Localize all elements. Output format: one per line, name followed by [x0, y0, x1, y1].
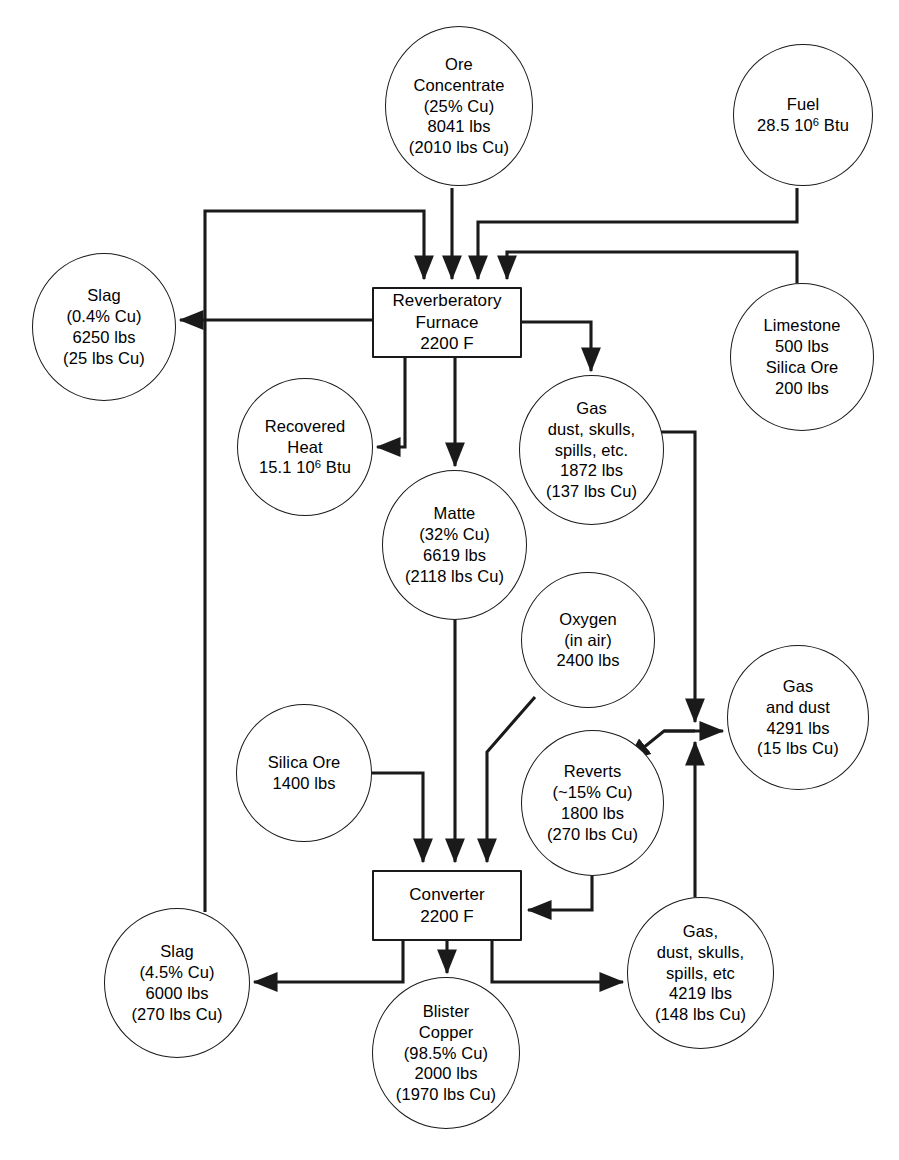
text-line: Recovered: [259, 416, 351, 437]
flow-converter-to-slag: [254, 941, 403, 982]
converter-box: Converter2200 F: [372, 870, 522, 941]
text-line: Slag: [131, 941, 222, 962]
blister-copper-node-label: BlisterCopper(98.5% Cu)2000 lbs(1970 lbs…: [396, 1001, 496, 1106]
text-line: (in air): [556, 630, 619, 651]
text-line: 1872 lbs: [546, 460, 637, 481]
text-line: 500 lbs: [763, 336, 840, 357]
text-line: Fuel: [757, 94, 849, 115]
recovered-heat-node: RecoveredHeat15.1 106 Btu: [237, 378, 373, 516]
text-line: (270 lbs Cu): [131, 1004, 222, 1025]
text-line: Blister: [396, 1001, 496, 1022]
matte-node: Matte(32% Cu)6619 lbs(2118 lbs Cu): [382, 470, 527, 620]
flow-furnace-gas-to-junction: [655, 432, 695, 722]
text-line: 2200 F: [409, 906, 485, 928]
text-line: (98.5% Cu): [396, 1043, 496, 1064]
exponent: 6: [315, 458, 321, 470]
matte-node-label: Matte(32% Cu)6619 lbs(2118 lbs Cu): [405, 503, 504, 587]
text-line: Slag: [63, 285, 145, 306]
text-line: 6619 lbs: [405, 545, 504, 566]
text-line: and dust: [757, 697, 839, 718]
ore-concentrate-node-label: OreConcentrate(25% Cu)8041 lbs(2010 lbs …: [409, 54, 509, 159]
fuel-node: Fuel28.5 106 Btu: [733, 44, 873, 186]
converter-slag-node-label: Slag(4.5% Cu)6000 lbs(270 lbs Cu): [131, 941, 222, 1025]
text-line: Concentrate: [409, 75, 509, 96]
text-line: (1970 lbs Cu): [396, 1084, 496, 1105]
text-line: Limestone: [763, 315, 840, 336]
text-line: spills, etc: [655, 963, 746, 984]
text-line: 4291 lbs: [757, 718, 839, 739]
flow-limestone-to-furnace: [507, 252, 797, 283]
text-line: Silica Ore: [268, 752, 341, 773]
text-line: 6000 lbs: [131, 983, 222, 1004]
reverts-node-label: Reverts(~15% Cu)1800 lbs(270 lbs Cu): [547, 761, 638, 845]
exponent: 6: [813, 116, 819, 128]
text-line: Gas: [757, 676, 839, 697]
text-line: Oxygen: [556, 609, 619, 630]
text-line: (25 lbs Cu): [63, 348, 145, 369]
recovered-heat-node-label: RecoveredHeat15.1 106 Btu: [259, 416, 351, 479]
furnace-slag-node-label: Slag(0.4% Cu)6250 lbs(25 lbs Cu): [63, 285, 145, 369]
oxygen-node: Oxygen(in air)2400 lbs: [521, 572, 655, 708]
text-line: (25% Cu): [409, 96, 509, 117]
text-line: spills, etc.: [546, 440, 637, 461]
text-line: (15 lbs Cu): [757, 738, 839, 759]
flow-converter-to-gas: [492, 941, 623, 982]
text-line: 6250 lbs: [63, 327, 145, 348]
text-line: 2000 lbs: [396, 1063, 496, 1084]
text-line: 4219 lbs: [655, 983, 746, 1004]
converter-gas-and-dust-node: Gasand dust4291 lbs(15 lbs Cu): [727, 645, 869, 790]
converter-slag-node: Slag(4.5% Cu)6000 lbs(270 lbs Cu): [104, 908, 250, 1058]
converter-gas-dust-skulls-node-label: Gas,dust, skulls,spills, etc4219 lbs(148…: [655, 921, 746, 1026]
text-line: (148 lbs Cu): [655, 1004, 746, 1025]
silica-ore-node-label: Silica Ore1400 lbs: [268, 752, 341, 794]
fuel-node-label: Fuel28.5 106 Btu: [757, 94, 849, 136]
text-line: Gas: [546, 398, 637, 419]
text-line: (270 lbs Cu): [547, 824, 638, 845]
ore-concentrate-node: OreConcentrate(25% Cu)8041 lbs(2010 lbs …: [385, 26, 533, 186]
text-line: Gas,: [655, 921, 746, 942]
text-line: (0.4% Cu): [63, 306, 145, 327]
text-line: 28.5 106 Btu: [757, 115, 849, 136]
text-line: 1400 lbs: [268, 773, 341, 794]
reverberatory-furnace-box-label: ReverberatoryFurnace2200 F: [392, 290, 501, 355]
furnace-gas-dust-node: Gasdust, skulls,spills, etc.1872 lbs(137…: [519, 375, 664, 525]
text-line: Furnace: [392, 312, 501, 334]
flow-fuel-to-furnace: [478, 188, 797, 279]
text-line: 15.1 106 Btu: [259, 457, 351, 478]
text-line: 8041 lbs: [409, 116, 509, 137]
reverts-node: Reverts(~15% Cu)1800 lbs(270 lbs Cu): [521, 730, 664, 876]
text-line: dust, skulls,: [655, 942, 746, 963]
text-line: (~15% Cu): [547, 782, 638, 803]
text-line: (2118 lbs Cu): [405, 566, 504, 587]
text-line: Ore: [409, 54, 509, 75]
text-line: 2200 F: [392, 333, 501, 355]
oxygen-node-label: Oxygen(in air)2400 lbs: [556, 609, 619, 672]
silica-ore-node: Silica Ore1400 lbs: [236, 704, 372, 842]
converter-gas-and-dust-node-label: Gasand dust4291 lbs(15 lbs Cu): [757, 676, 839, 760]
text-line: Copper: [396, 1022, 496, 1043]
reverberatory-furnace-box: ReverberatoryFurnace2200 F: [372, 287, 522, 358]
text-line: 2400 lbs: [556, 650, 619, 671]
text-line: Silica Ore: [763, 357, 840, 378]
blister-copper-node: BlisterCopper(98.5% Cu)2000 lbs(1970 lbs…: [372, 977, 520, 1129]
text-line: (137 lbs Cu): [546, 481, 637, 502]
text-line: 200 lbs: [763, 378, 840, 399]
furnace-gas-dust-node-label: Gasdust, skulls,spills, etc.1872 lbs(137…: [546, 398, 637, 503]
limestone-silica-ore-node: Limestone500 lbsSilica Ore200 lbs: [730, 283, 874, 431]
text-line: Reverts: [547, 761, 638, 782]
converter-box-label: Converter2200 F: [409, 884, 485, 927]
text-line: Heat: [259, 437, 351, 458]
flow-silica-ore-to-converter: [372, 773, 423, 862]
text-line: Reverberatory: [392, 290, 501, 312]
limestone-silica-ore-node-label: Limestone500 lbsSilica Ore200 lbs: [763, 315, 840, 399]
furnace-slag-node: Slag(0.4% Cu)6250 lbs(25 lbs Cu): [32, 253, 176, 401]
converter-gas-dust-skulls-node: Gas,dust, skulls,spills, etc4219 lbs(148…: [627, 897, 774, 1049]
process-flow-diagram: OreConcentrate(25% Cu)8041 lbs(2010 lbs …: [0, 0, 899, 1160]
text-line: dust, skulls,: [546, 419, 637, 440]
text-line: (2010 lbs Cu): [409, 137, 509, 158]
flow-furnace-to-gas: [522, 322, 591, 371]
text-line: (32% Cu): [405, 524, 504, 545]
flow-reverts-to-converter: [528, 876, 592, 910]
text-line: 1800 lbs: [547, 803, 638, 824]
text-line: Converter: [409, 884, 485, 906]
